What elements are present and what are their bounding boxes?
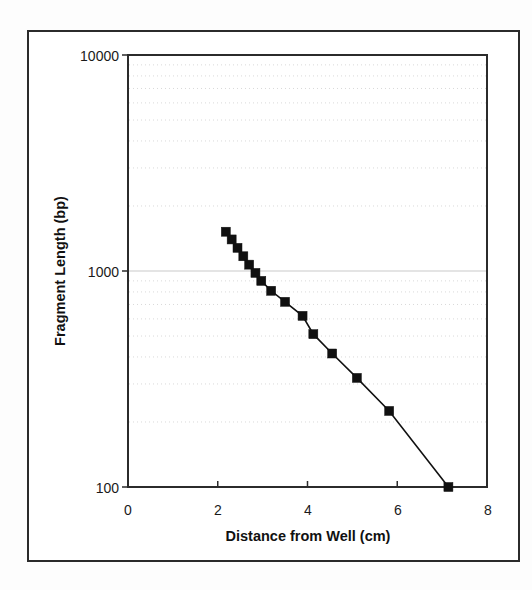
figure-root: 10000 1000 100 0 2 4 6 8 Distance from W… [0, 0, 532, 590]
data-point-marker [233, 243, 242, 252]
gridlines-group [129, 65, 486, 422]
data-point-marker [444, 483, 453, 492]
x-tick-label-6: 6 [394, 502, 402, 518]
y-tick-label-10000: 10000 [80, 48, 119, 64]
y-axis-title: Fragment Length (bp) [52, 196, 68, 346]
x-tick-label-8: 8 [484, 502, 492, 518]
x-axis-title: Distance from Well (cm) [226, 528, 391, 544]
x-tick-label-2: 2 [214, 502, 222, 518]
data-series-group [221, 227, 453, 491]
y-tick-label-100: 100 [96, 480, 120, 496]
data-point-marker [267, 286, 276, 295]
data-point-marker [328, 349, 337, 358]
y-tick-label-1000: 1000 [88, 264, 119, 280]
x-tick-label-4: 4 [304, 502, 312, 518]
data-point-marker [251, 268, 260, 277]
data-point-marker [352, 373, 361, 382]
data-point-marker [257, 276, 266, 285]
data-point-marker [281, 297, 290, 306]
data-point-marker [245, 260, 254, 269]
chart-canvas: 10000 1000 100 0 2 4 6 8 Distance from W… [0, 0, 532, 590]
data-point-marker [298, 311, 307, 320]
data-point-marker [239, 252, 248, 261]
data-point-marker [385, 406, 394, 415]
data-point-marker [309, 330, 318, 339]
data-point-marker [227, 235, 236, 244]
x-tick-label-0: 0 [124, 502, 132, 518]
